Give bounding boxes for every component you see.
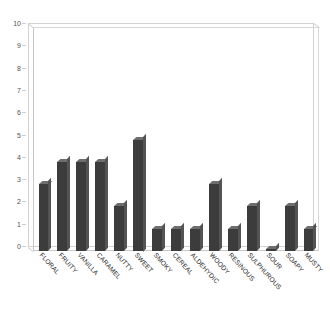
bar-side-face xyxy=(295,200,298,251)
x-axis-tick-label: SWEET xyxy=(133,252,154,274)
y-axis-tick-label: 3 xyxy=(17,176,21,183)
bar-sweet[interactable] xyxy=(133,28,143,251)
bar-front-face xyxy=(39,184,49,251)
bar-woody[interactable] xyxy=(209,28,219,251)
bar-nutty[interactable] xyxy=(114,28,124,251)
y-axis-tick-label: 1 xyxy=(17,220,21,227)
bar-vanilla[interactable] xyxy=(76,28,86,251)
bar-front-face xyxy=(285,206,295,251)
bar-fruity[interactable] xyxy=(57,28,67,251)
y-axis-tick-mark xyxy=(22,68,26,69)
bar-resinous[interactable] xyxy=(228,28,238,251)
bar-smoky[interactable] xyxy=(152,28,162,251)
bar-front-face xyxy=(247,206,257,251)
y-axis-tick-mark xyxy=(22,179,26,180)
y-axis-tick-label: 0 xyxy=(17,243,21,250)
y-axis-tick-mark xyxy=(22,45,26,46)
bar-soapy[interactable] xyxy=(285,28,295,251)
bar-side-face xyxy=(67,155,70,251)
bar-side-face xyxy=(105,155,108,251)
y-axis-tick-label: 9 xyxy=(17,42,21,49)
y-axis-tick-mark xyxy=(22,112,26,113)
x-axis-tick-label: MUSTY xyxy=(303,252,324,274)
bar-sour[interactable] xyxy=(266,28,276,251)
y-axis-tick-label: 6 xyxy=(17,109,21,116)
bar-front-face xyxy=(133,140,143,252)
x-axis: FLORALFRUITYVANILLACARAMELNUTTYSWEETSMOK… xyxy=(34,252,318,329)
bar-side-face xyxy=(276,243,279,251)
y-axis-tick-mark xyxy=(22,157,26,158)
bar-aldehydic[interactable] xyxy=(190,28,200,251)
bar-side-face xyxy=(124,200,127,251)
bar-musty[interactable] xyxy=(304,28,314,251)
bar-front-face xyxy=(152,229,162,251)
y-axis-tick-label: 7 xyxy=(17,86,21,93)
y-axis-tick-mark xyxy=(22,90,26,91)
bar-front-face xyxy=(190,229,200,251)
bar-front-face xyxy=(209,184,219,251)
bar-caramel[interactable] xyxy=(95,28,105,251)
bar-side-face xyxy=(143,133,146,251)
bar-chart: 012345678910 FLORALFRUITYVANILLACARAMELN… xyxy=(0,0,330,329)
bar-side-face xyxy=(181,222,184,251)
y-axis-tick-label: 5 xyxy=(17,131,21,138)
bar-side-face xyxy=(48,178,51,251)
x-axis-tick-label: SOUR xyxy=(265,252,283,271)
bar-front-face xyxy=(95,162,105,251)
y-axis-tick-label: 2 xyxy=(17,198,21,205)
bar-front-face xyxy=(76,162,86,251)
y-axis-tick-label: 10 xyxy=(13,20,21,27)
bars-layer xyxy=(34,28,318,251)
bar-side-face xyxy=(162,222,165,251)
y-axis: 012345678910 xyxy=(0,23,26,247)
bar-floral[interactable] xyxy=(39,28,49,251)
bar-front-face xyxy=(114,206,124,251)
bar-front-face xyxy=(228,229,238,251)
y-axis-tick-mark xyxy=(22,246,26,247)
y-axis-tick-label: 4 xyxy=(17,153,21,160)
bar-cereal[interactable] xyxy=(171,28,181,251)
bar-side-face xyxy=(257,200,260,251)
bar-side-face xyxy=(86,155,89,251)
y-axis-tick-mark xyxy=(22,201,26,202)
bar-side-face xyxy=(238,222,241,251)
y-axis-tick-mark xyxy=(22,224,26,225)
y-axis-tick-mark xyxy=(22,135,26,136)
bar-sulphurous[interactable] xyxy=(247,28,257,251)
bar-side-face xyxy=(219,178,222,251)
bar-front-face xyxy=(57,162,67,251)
x-axis-tick-label: SMOKY xyxy=(152,252,173,274)
y-axis-tick-label: 8 xyxy=(17,64,21,71)
x-axis-tick-label: SOAPY xyxy=(284,252,304,274)
y-axis-tick-mark xyxy=(22,23,26,24)
bar-side-face xyxy=(200,222,203,251)
bar-front-face xyxy=(304,229,314,251)
bar-front-face xyxy=(171,229,181,251)
